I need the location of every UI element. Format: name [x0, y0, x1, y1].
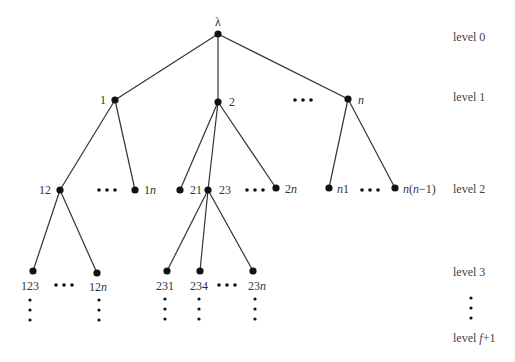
node-n3_234 — [196, 267, 203, 274]
node-n2_23 — [204, 186, 211, 193]
edge-n2_23-n3_231 — [167, 190, 208, 271]
edge-root-n1_n — [218, 34, 348, 99]
node-label-n3_23n: 23n — [248, 279, 266, 293]
node-n3_123 — [29, 267, 36, 274]
edge-root-n1_1 — [115, 34, 218, 100]
nodes — [29, 30, 398, 276]
node-label-n2_nn1: n(n−1) — [403, 182, 436, 196]
level-labels: level 0level 1level 2level 3level f+1 — [453, 30, 495, 345]
node-label-n2_12: 12 — [39, 183, 51, 197]
node-label-root: λ — [215, 15, 221, 29]
node-label-n3_231: 231 — [156, 279, 174, 293]
edges — [33, 34, 395, 273]
node-n2_nn1 — [391, 184, 398, 191]
horizontal-ellipsis-icon — [245, 188, 265, 192]
node-labels: λ12n121n21232nn1n(n−1)12312n23123423n — [21, 15, 436, 294]
node-n2_n1 — [325, 184, 332, 191]
level-label: level 0 — [453, 30, 485, 44]
node-n1_1 — [111, 96, 118, 103]
node-label-n1_n: n — [358, 93, 364, 107]
edge-n1_2-n2_2n — [218, 102, 276, 188]
node-label-n2_n1: n1 — [337, 182, 349, 196]
edge-n1_2-n2_23 — [208, 102, 218, 190]
node-n2_12 — [56, 186, 63, 193]
node-n1_2 — [214, 98, 221, 105]
node-n1_n — [344, 95, 351, 102]
node-label-n1_2: 2 — [229, 95, 235, 109]
edge-n1_1-n2_12 — [60, 100, 115, 190]
horizontal-ellipsis-icon — [360, 188, 380, 192]
edge-n2_23-n3_23n — [208, 190, 253, 271]
node-root — [214, 30, 221, 37]
node-label-n3_12n: 12n — [89, 280, 107, 294]
edge-n1_2-n2_21 — [180, 102, 218, 190]
tree-diagram: λ12n121n21232nn1n(n−1)12312n23123423n le… — [0, 0, 515, 362]
node-n2_21 — [176, 186, 183, 193]
vertical-ellipsis-icon — [163, 297, 166, 320]
edge-n2_12-n3_123 — [33, 190, 60, 271]
node-n2_2n — [272, 184, 279, 191]
level-label: level f+1 — [453, 331, 495, 345]
edge-n1_n-n2_nn1 — [348, 99, 395, 188]
node-label-n3_234: 234 — [190, 279, 208, 293]
horizontal-ellipsis-icon — [293, 98, 313, 102]
vertical-ellipsis-icon — [28, 298, 31, 321]
node-label-n3_123: 123 — [21, 279, 39, 293]
edge-n1_n-n2_n1 — [329, 99, 348, 188]
vertical-ellipsis-icon — [197, 297, 200, 320]
horizontal-ellipsis-icon — [97, 188, 117, 192]
node-label-n2_1n: 1n — [144, 183, 156, 197]
horizontal-ellipsis-icon — [217, 283, 237, 287]
node-n3_12n — [93, 269, 100, 276]
level-label: level 3 — [453, 265, 485, 279]
level-label: level 2 — [453, 182, 485, 196]
node-label-n2_2n: 2n — [285, 182, 297, 196]
vertical-ellipsis-icon — [97, 298, 100, 321]
vertical-ellipsis-icon — [469, 296, 472, 319]
node-label-n2_23: 23 — [219, 183, 231, 197]
node-n3_231 — [163, 267, 170, 274]
horizontal-ellipsis-icon — [54, 283, 74, 287]
edge-n2_12-n3_12n — [60, 190, 97, 273]
node-n3_23n — [249, 267, 256, 274]
vertical-ellipsis-icon — [253, 297, 256, 320]
edge-n1_1-n2_1n — [115, 100, 135, 190]
node-label-n2_21: 21 — [190, 183, 202, 197]
level-label: level 1 — [453, 90, 485, 104]
node-label-n1_1: 1 — [100, 93, 106, 107]
node-n2_1n — [131, 186, 138, 193]
